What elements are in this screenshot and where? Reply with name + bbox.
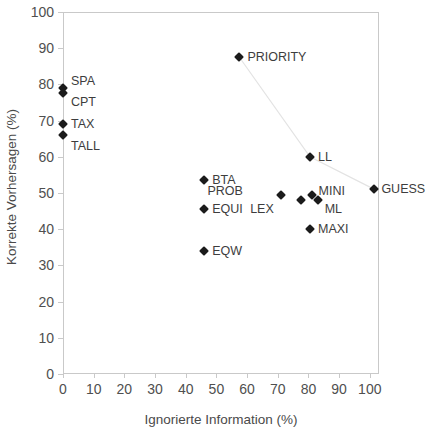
data-point-tall[interactable] (58, 130, 68, 140)
x-tick (308, 373, 309, 378)
y-tick (58, 265, 63, 266)
x-tick-label: 10 (86, 381, 102, 397)
x-tick-label: 40 (178, 381, 194, 397)
x-tick-label: 60 (239, 381, 255, 397)
x-tick-label: 30 (147, 381, 163, 397)
scatter-plot-figure: Korrekte Vorhersagen (%) Ignorierte Info… (0, 0, 434, 442)
data-point-cpt[interactable] (58, 88, 68, 98)
data-point-tax[interactable] (58, 119, 68, 129)
y-tick-label: 60 (38, 149, 54, 165)
y-tick-label: 20 (38, 294, 54, 310)
data-point-label-prob: PROB (207, 184, 242, 198)
y-tick-label: 0 (46, 366, 54, 382)
y-tick-label: 80 (38, 76, 54, 92)
data-point-label-cpt: CPT (71, 95, 96, 109)
x-tick (155, 373, 156, 378)
x-tick (186, 373, 187, 378)
x-tick (124, 373, 125, 378)
y-tick-label: 30 (38, 257, 54, 273)
y-tick (58, 302, 63, 303)
data-point-label-priority: PRIORITY (247, 50, 306, 64)
data-point-prob[interactable] (276, 190, 286, 200)
data-point-label-ll: LL (318, 150, 332, 164)
x-tick-label: 0 (59, 381, 67, 397)
x-tick (216, 373, 217, 378)
x-tick (94, 373, 95, 378)
y-axis-line (63, 12, 64, 374)
y-tick-label: 70 (38, 113, 54, 129)
x-tick (63, 373, 64, 378)
y-axis-title: Korrekte Vorhersagen (%) (0, 0, 22, 374)
y-tick-label: 40 (38, 221, 54, 237)
data-point-label-eqw: EQW (212, 244, 242, 258)
x-tick-label: 70 (270, 381, 286, 397)
plot-top-spine (63, 12, 379, 13)
data-point-equi[interactable] (199, 204, 209, 214)
y-tick (58, 229, 63, 230)
x-tick-label: 100 (358, 381, 381, 397)
data-point-lex[interactable] (296, 195, 306, 205)
plot-right-spine (378, 12, 379, 374)
y-tick (58, 48, 63, 49)
data-point-label-mini: MINI (319, 184, 345, 198)
plot-area: 0102030405060708090100 01020304050607080… (63, 12, 379, 374)
data-point-label-tax: TAX (71, 117, 94, 131)
data-point-label-tall: TALL (71, 139, 100, 153)
y-tick (58, 193, 63, 194)
x-tick (247, 373, 248, 378)
x-tick-label: 90 (331, 381, 347, 397)
x-axis-line (63, 373, 379, 374)
x-tick (339, 373, 340, 378)
y-tick-label: 50 (38, 185, 54, 201)
y-tick-label: 10 (38, 330, 54, 346)
data-point-label-maxi: MAXI (318, 222, 349, 236)
y-tick (58, 12, 63, 13)
data-point-label-guess: GUESS (381, 182, 425, 196)
y-tick (58, 157, 63, 158)
data-point-eqw[interactable] (199, 246, 209, 256)
y-tick (58, 338, 63, 339)
x-tick-label: 50 (209, 381, 225, 397)
x-tick (278, 373, 279, 378)
data-point-priority[interactable] (234, 52, 244, 62)
data-point-label-ml: ML (325, 202, 342, 216)
x-tick-label: 80 (301, 381, 317, 397)
x-axis-title: Ignorierte Information (%) (63, 412, 379, 427)
y-tick-label: 90 (38, 40, 54, 56)
x-tick (370, 373, 371, 378)
data-point-ll[interactable] (305, 152, 315, 162)
data-point-label-spa: SPA (71, 74, 95, 88)
data-point-label-equi: EQUI (212, 202, 243, 216)
data-point-label-lex: LEX (250, 202, 274, 216)
y-tick-label: 100 (31, 4, 54, 20)
x-tick-label: 20 (117, 381, 133, 397)
data-point-maxi[interactable] (305, 224, 315, 234)
